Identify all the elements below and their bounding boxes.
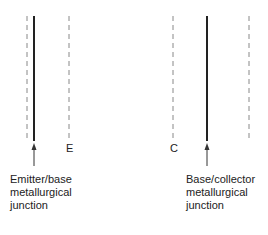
- label-line: Emitter/base: [10, 173, 72, 186]
- collector-letter: C: [170, 142, 178, 154]
- emitter-arrow-icon: [32, 143, 37, 166]
- label-line: Base/collector: [186, 173, 255, 186]
- collector-junction-label: Base/collector metallurgical junction: [186, 173, 255, 212]
- label-line: junction: [10, 199, 72, 212]
- label-line: metallurgical: [186, 186, 255, 199]
- label-line: metallurgical: [10, 186, 72, 199]
- collector-arrow-icon: [205, 143, 210, 166]
- emitter-letter: E: [66, 142, 73, 154]
- label-line: junction: [186, 199, 255, 212]
- emitter-junction-label: Emitter/base metallurgical junction: [10, 173, 72, 212]
